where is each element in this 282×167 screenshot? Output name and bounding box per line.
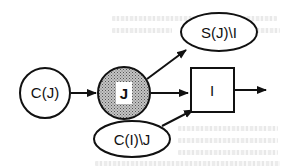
flow-diagram: C(J) J S(J)\I I C(I)\J [0, 0, 282, 167]
node-j: J [98, 67, 150, 119]
node-sji-label: S(J)\I [201, 24, 237, 41]
node-sji: S(J)\I [181, 13, 257, 51]
edge-j-to-sji [147, 50, 186, 79]
node-cj-label: C(J) [31, 84, 59, 101]
node-cj: C(J) [20, 68, 70, 118]
node-j-label: J [120, 85, 128, 102]
node-cij-label: C(I)\J [114, 131, 151, 148]
edge-cij-to-i [162, 110, 193, 126]
node-i-label: I [210, 82, 214, 99]
node-i: I [191, 68, 234, 112]
node-cij: C(I)\J [94, 121, 170, 157]
